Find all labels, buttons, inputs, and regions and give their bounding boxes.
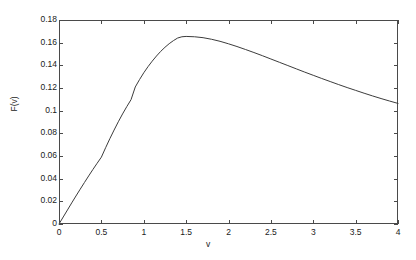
x-axis-tick: [356, 220, 357, 224]
x-tick-label: 3.5: [336, 228, 376, 237]
y-axis-tick-right: [394, 179, 398, 180]
y-axis-tick-right: [394, 224, 398, 225]
y-axis-tick: [59, 201, 63, 202]
y-axis-tick: [59, 179, 63, 180]
y-axis-title: F(v): [9, 96, 19, 111]
x-tick-label: 3: [293, 228, 333, 237]
x-axis-tick-top: [356, 20, 357, 24]
x-tick-label: 2: [209, 228, 249, 237]
y-axis-tick-right: [394, 133, 398, 134]
y-axis-tick-right: [394, 111, 398, 112]
x-axis-tick-top: [229, 20, 230, 24]
y-axis-tick-right: [394, 88, 398, 89]
x-axis-tick-top: [398, 20, 399, 24]
y-axis-tick-right: [394, 156, 398, 157]
x-axis-tick: [144, 220, 145, 224]
y-axis-tick: [59, 65, 63, 66]
x-tick-label: 0: [39, 228, 79, 237]
figure-canvas: 00.020.040.060.080.10.120.140.160.18 00.…: [0, 0, 416, 260]
y-axis-tick-right: [394, 20, 398, 21]
x-axis-tick-top: [59, 20, 60, 24]
y-axis-tick: [59, 224, 63, 225]
x-axis-title: v: [0, 239, 416, 249]
x-axis-tick: [229, 220, 230, 224]
y-axis-tick: [59, 111, 63, 112]
y-axis-tick-right: [394, 43, 398, 44]
y-axis-tick: [59, 43, 63, 44]
x-tick-label: 2.5: [251, 228, 291, 237]
y-axis-tick: [59, 88, 63, 89]
x-axis-tick-top: [101, 20, 102, 24]
x-tick-label: 1: [124, 228, 164, 237]
x-axis-tick: [313, 220, 314, 224]
x-axis-tick: [271, 220, 272, 224]
x-axis-tick: [101, 220, 102, 224]
x-tick-label: 1.5: [166, 228, 206, 237]
y-axis-tick-right: [394, 65, 398, 66]
x-tick-label: 0.5: [81, 228, 121, 237]
plot-frame: [59, 20, 398, 224]
x-axis-tick-top: [313, 20, 314, 24]
x-axis-tick-top: [271, 20, 272, 24]
y-axis-tick-right: [394, 201, 398, 202]
x-axis-tick: [59, 220, 60, 224]
x-axis-tick-top: [144, 20, 145, 24]
y-axis-tick: [59, 156, 63, 157]
x-axis-tick-top: [186, 20, 187, 24]
x-axis-tick: [398, 220, 399, 224]
y-axis-tick: [59, 133, 63, 134]
x-axis-tick: [186, 220, 187, 224]
x-tick-label: 4: [378, 228, 416, 237]
